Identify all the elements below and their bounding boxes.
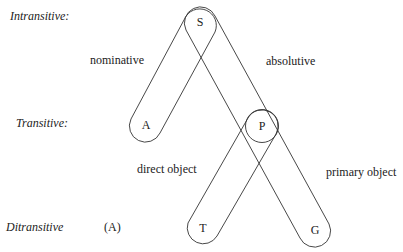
- absolutive-capsule: [184, 7, 330, 247]
- node-S: S: [197, 15, 204, 29]
- node-G: G: [311, 223, 320, 237]
- node-A: A: [142, 118, 151, 132]
- node-P: P: [259, 119, 266, 133]
- alignment-diagram: S A P T G: [0, 0, 403, 252]
- node-T: T: [199, 221, 207, 235]
